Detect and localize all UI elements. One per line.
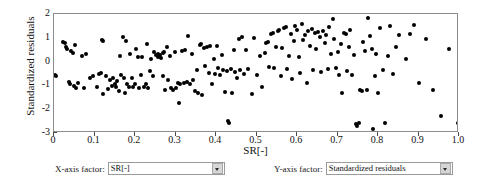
scatter-point (99, 71, 103, 75)
scatter-point (225, 69, 229, 73)
scatter-point (149, 57, 153, 61)
x-axis-tick-mark (458, 132, 459, 136)
y-axis-factor-select[interactable]: Standardized residuals (326, 162, 453, 175)
scatter-point (348, 28, 352, 32)
chevron-down-icon[interactable] (212, 163, 223, 174)
x-axis-factor-value: SR[-] (109, 163, 212, 174)
y-axis-tick-label: -1 (36, 79, 50, 89)
scatter-point (260, 85, 264, 89)
scatter-point (203, 64, 207, 68)
scatter-point (386, 54, 390, 58)
x-axis-tick-mark (256, 132, 257, 136)
scatter-point (383, 121, 387, 125)
scatter-point (366, 16, 370, 20)
scatter-point (148, 69, 152, 73)
y-axis-tick-labels: 210-1-2-3 (33, 13, 50, 132)
scatter-point (101, 92, 105, 96)
chevron-down-icon[interactable] (440, 163, 451, 174)
scatter-point (177, 101, 181, 105)
scatter-point (139, 73, 143, 77)
scatter-point (212, 57, 216, 61)
scatter-point (124, 39, 128, 43)
scatter-point (352, 53, 356, 57)
scatter-point (74, 86, 78, 90)
scatter-point (229, 67, 233, 71)
x-axis-tick-mark (337, 132, 338, 136)
scatter-point (314, 47, 318, 51)
scatter-point (165, 45, 169, 49)
scatter-point (303, 33, 307, 37)
scatter-point (232, 48, 236, 52)
scatter-point (289, 32, 293, 36)
scatter-point (371, 127, 375, 131)
scatter-point (360, 89, 364, 93)
scatter-point (280, 46, 284, 50)
scatter-point (339, 42, 343, 46)
scatter-point (267, 65, 271, 69)
scatter-point (230, 91, 234, 95)
scatter-point (174, 86, 178, 90)
scatter-point (295, 28, 299, 32)
scatter-point (134, 47, 138, 51)
scatter-point (151, 74, 155, 78)
scatter-point (363, 49, 367, 53)
scatter-point (252, 36, 256, 40)
scatter-point (207, 71, 211, 75)
scatter-point (279, 74, 283, 78)
scatter-point (424, 37, 428, 41)
scatter-point (218, 73, 222, 77)
scatter-point (240, 35, 244, 39)
y-axis-tick-label: -2 (36, 103, 50, 113)
scatter-point (213, 72, 217, 76)
scatter-point (290, 77, 294, 81)
scatter-point (238, 68, 242, 72)
x-axis-tick-mark (215, 132, 216, 136)
scatter-point (117, 89, 121, 93)
scatter-point (71, 51, 75, 55)
scatter-point (447, 47, 451, 51)
x-axis-factor-select[interactable]: SR[-] (108, 162, 225, 175)
scatter-point (347, 45, 351, 49)
y-axis-tick-label: 1 (36, 32, 50, 42)
scatter-point (374, 52, 378, 56)
scatter-point (210, 82, 214, 86)
scatter-point (310, 27, 314, 31)
scatter-point (370, 47, 374, 51)
scatter-point (127, 85, 131, 89)
scatter-point (131, 85, 135, 89)
scatter-point (91, 74, 95, 78)
scatter-point (326, 67, 330, 71)
scatter-point (340, 91, 344, 95)
scatter-point (190, 52, 194, 56)
scatter-point (272, 66, 276, 70)
scatter-point (431, 88, 435, 92)
scatter-point (323, 41, 327, 45)
scatter-point (233, 70, 237, 74)
scatter-point (408, 32, 412, 36)
scatter-point (208, 44, 212, 48)
scatter-point (391, 72, 395, 76)
scatter-point (336, 50, 340, 54)
scatter-point (365, 88, 369, 92)
y-axis-factor-control: Y-axis factor: Standardized residuals (274, 162, 453, 175)
scatter-point (292, 39, 296, 43)
scatter-point (361, 40, 365, 44)
x-axis-tick-mark (175, 132, 176, 136)
scatter-point (84, 52, 88, 56)
scatter-point (378, 26, 382, 30)
scatter-point (350, 73, 354, 77)
scatter-point (376, 91, 380, 95)
residual-plot-app: Standardized residuals 210-1-2-3 00.10.2… (0, 0, 477, 189)
scatter-point (95, 85, 99, 89)
scatter-point (305, 81, 309, 85)
scatter-chart-panel: Standardized residuals 210-1-2-3 00.10.2… (0, 0, 477, 157)
scatter-point (308, 44, 312, 48)
scatter-point (173, 50, 177, 54)
scatter-point (381, 68, 385, 72)
scatter-point (345, 69, 349, 73)
scatter-point (118, 54, 122, 58)
scatter-point (215, 44, 219, 48)
scatter-point (337, 73, 341, 77)
scatter-point (242, 72, 246, 76)
scatter-point (301, 38, 305, 42)
